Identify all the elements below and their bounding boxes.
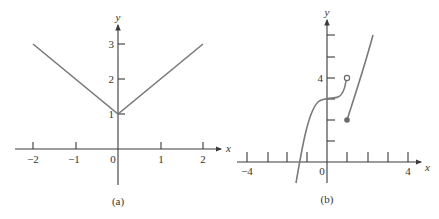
y-ticks-b: [327, 35, 335, 141]
x-tick-label: −1: [68, 153, 80, 165]
graph-curve-b-right: [347, 35, 373, 120]
y-tick-label: 4: [318, 72, 324, 84]
panel-b: −4 0 4 4 y x (b): [237, 6, 430, 206]
filled-endpoint: [344, 117, 350, 123]
y-axis-label-b: y: [324, 6, 330, 18]
open-endpoint: [344, 75, 349, 80]
x-tick-label: 4: [405, 165, 411, 177]
x-tick-label: 1: [158, 153, 164, 165]
y-tick-label: 2: [109, 73, 115, 85]
caption-b: (b): [321, 193, 334, 206]
y-axis-label-a: y: [115, 11, 121, 23]
x-tick-label: 2: [200, 153, 206, 165]
x-axis-label-a: x: [225, 142, 231, 154]
y-tick-label: 3: [109, 38, 115, 50]
figure-canvas: −2 −1 0 1 2 1 2 3 y x (a): [0, 0, 439, 219]
y-ticks-a: [118, 44, 125, 114]
panel-a: −2 −1 0 1 2 1 2 3 y x (a): [15, 11, 231, 208]
x-axis-label-b: x: [424, 161, 430, 173]
x-tick-label: −2: [27, 153, 39, 165]
x-tick-label: 0: [319, 165, 325, 177]
x-tick-label: −4: [241, 165, 253, 177]
caption-a: (a): [112, 195, 125, 208]
x-tick-label: 0: [110, 153, 116, 165]
